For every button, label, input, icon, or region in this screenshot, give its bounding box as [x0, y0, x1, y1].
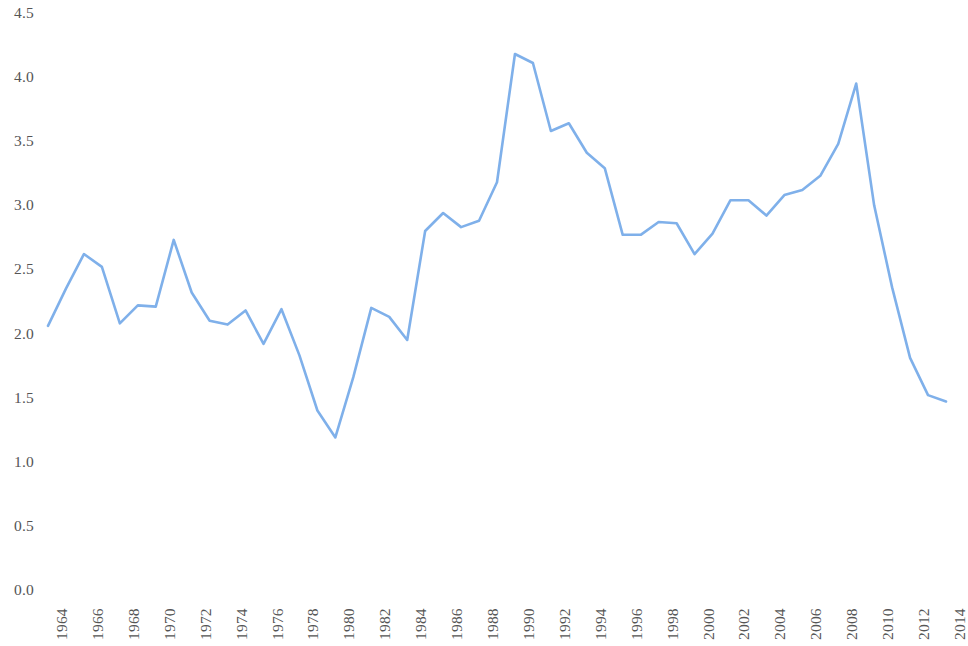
x-tick-label: 1970 — [162, 608, 178, 640]
x-tick-label: 1982 — [377, 608, 393, 640]
x-tick-label: 2006 — [808, 608, 824, 640]
x-tick-label: 1992 — [557, 608, 573, 640]
x-tick-label: 1964 — [54, 608, 70, 640]
x-tick-label: 2012 — [916, 608, 932, 640]
x-tick-label: 1976 — [270, 608, 286, 640]
x-tick-label: 2002 — [736, 608, 752, 640]
x-tick-label: 1988 — [485, 608, 501, 640]
x-tick-label: 2000 — [701, 608, 717, 640]
x-tick-label: 2004 — [772, 608, 788, 640]
x-tick-label: 1978 — [305, 608, 321, 640]
x-tick-label: 1966 — [90, 608, 106, 640]
x-tick-label: 1996 — [629, 608, 645, 640]
x-tick-label: 1994 — [593, 608, 609, 640]
x-tick-label: 1990 — [521, 608, 537, 640]
x-tick-label: 1974 — [234, 608, 250, 640]
x-tick-label: 2008 — [844, 608, 860, 640]
x-tick-label: 1968 — [126, 608, 142, 640]
x-tick-label: 1986 — [449, 608, 465, 640]
x-tick-label: 1984 — [413, 608, 429, 640]
x-tick-label: 2014 — [952, 608, 968, 640]
x-tick-label: 1980 — [341, 608, 357, 640]
x-tick-label: 2010 — [880, 608, 896, 640]
x-tick-label: 1998 — [665, 608, 681, 640]
x-tick-label: 1972 — [198, 608, 214, 640]
